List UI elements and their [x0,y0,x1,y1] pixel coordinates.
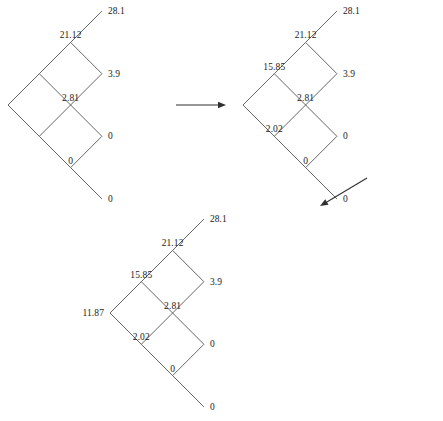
terminal-value-down-down-down: 0 [343,194,348,204]
terminal-value-up-up-down: 3.9 [210,277,222,287]
node-value-1-down: 2.02 [266,124,283,134]
node-value-2-up: 21.12 [162,238,184,248]
node-value-2-up: 21.12 [60,30,82,40]
lattice-edge-down [306,105,337,136]
lattice-edge-up [39,105,70,136]
lattice-edge-down [39,136,70,167]
terminal-value-up-up-down: 3.9 [108,69,120,79]
lattice-stage-1 [8,11,102,199]
lattice-edge-up [243,74,274,105]
terminal-value-down-down-down: 0 [210,402,215,412]
lattice-stage-3 [110,219,204,407]
lattice-edge-down [306,42,337,73]
lattice-edge-down [141,344,172,375]
terminal-value-up-up-up: 28.1 [343,6,360,16]
terminal-value-up-down-down: 0 [343,131,348,141]
arrow-stage1-to-stage2 [176,102,226,108]
node-value-2-up: 21.12 [295,30,317,40]
lattice-edge-down [274,136,305,167]
terminal-value-up-up-up: 28.1 [108,6,125,16]
lattice-edge-down [173,376,204,407]
node-value-2-down: 0 [68,156,73,166]
arrow-stage1-to-stage2-head [218,102,226,108]
lattice-edge-down [8,105,39,136]
terminal-value-up-down-down: 0 [210,339,215,349]
lattice-edge-down [71,105,102,136]
lattice-edge-up [110,282,141,313]
lattice-edge-up [71,136,102,167]
node-value-1-down: 2.02 [133,332,150,342]
lattice-edge-down [173,313,204,344]
lattice-edge-down [71,42,102,73]
arrow-stage2-to-stage3-head [320,199,329,206]
terminal-value-up-down-down: 0 [108,131,113,141]
lattice-stage-2 [243,11,337,199]
node-value-2-mid: 2.81 [164,301,181,311]
lattice-edge-up [306,136,337,167]
node-value-1-up: 15.85 [263,62,285,72]
node-value-2-down: 0 [303,156,308,166]
lattice-edge-up [8,74,39,105]
lattice-edge-down [306,168,337,199]
terminal-value-down-down-down: 0 [108,194,113,204]
lattice-edge-up [39,42,70,73]
node-value-root: 11.87 [82,308,104,318]
lattice-edge-down [71,168,102,199]
node-value-2-mid: 2.81 [62,93,79,103]
node-value-2-mid: 2.81 [297,93,314,103]
terminal-value-up-up-up: 28.1 [210,214,227,224]
terminal-value-up-up-down: 3.9 [343,69,355,79]
node-value-1-up: 15.85 [130,270,152,280]
lattice-edges [0,0,443,421]
diagram-canvas: 21.122.81028.13.90021.122.81015.852.0228… [0,0,443,421]
lattice-edge-down [173,250,204,281]
node-value-2-down: 0 [170,364,175,374]
lattice-edge-up [173,344,204,375]
